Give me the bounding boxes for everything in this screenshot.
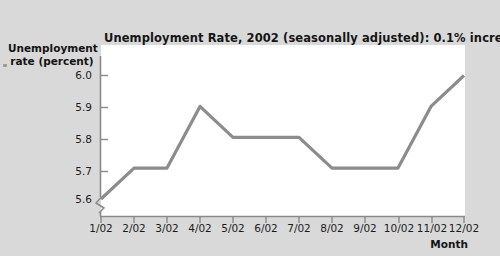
chart-svg — [0, 0, 500, 256]
unemployment-rate-line-chart: Unemployment Rate, 2002 (seasonally adju… — [0, 0, 500, 256]
y-axis-break-icon — [96, 198, 104, 213]
data-series-line — [101, 76, 464, 200]
